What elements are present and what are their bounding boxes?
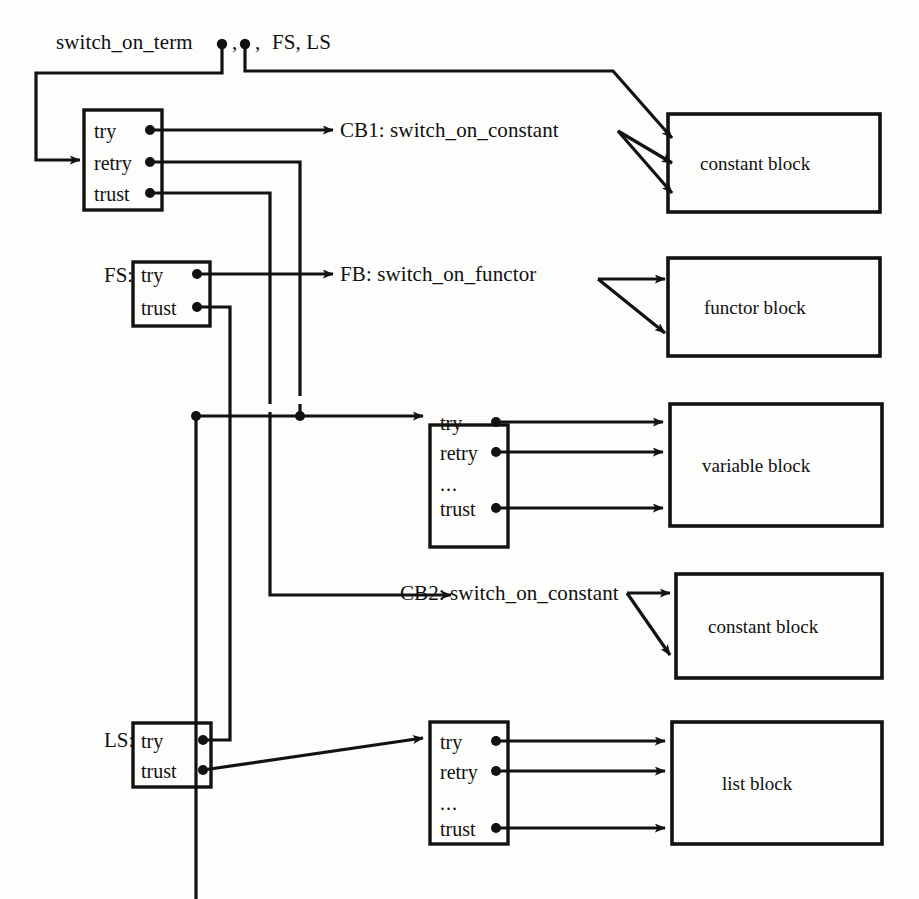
cp-term-trust-dot <box>145 188 155 198</box>
wire-arg1-to-term-choicepoint <box>36 48 222 160</box>
block-label-list: list block <box>722 774 792 793</box>
cp-ls-try-dot <box>198 735 208 745</box>
block-label-constant-1: constant block <box>700 154 810 173</box>
cp-term-try-dot <box>145 125 155 135</box>
cp-var-field-try: try <box>440 413 462 433</box>
header-comma-1: , <box>232 32 237 53</box>
cp-fs-try-dot <box>192 269 202 279</box>
header-named-args: FS, LS <box>272 32 331 53</box>
cp-term-field-retry: retry <box>94 153 132 173</box>
cp-list-field-retry: retry <box>440 762 478 782</box>
label-fb: FB: switch_on_functor <box>340 264 536 285</box>
cp-ls-field-trust: trust <box>141 761 177 781</box>
cp-var-field-ellipsis: ... <box>440 474 458 494</box>
wire-cb1-to-constant-block-a <box>618 131 672 163</box>
header-instruction: switch_on_term <box>56 32 193 53</box>
block-label-constant-2: constant block <box>708 617 818 636</box>
cp-fs-trust-dot <box>192 302 202 312</box>
cp-list-trust-dot <box>491 823 501 833</box>
cp-fs-field-trust: trust <box>141 298 177 318</box>
cp-term-field-trust: trust <box>94 184 130 204</box>
cp-var-field-trust: trust <box>440 499 476 519</box>
cp-ls-field-try: try <box>141 731 163 751</box>
wire-ls-trust-to-list-choicepoint <box>203 738 423 770</box>
cp-var-trust-dot <box>491 503 501 513</box>
wire-term-retry-bus <box>150 162 300 416</box>
block-label-functor: functor block <box>704 298 806 317</box>
bus-junction-retry <box>295 411 305 421</box>
arg-dot-1 <box>217 39 227 49</box>
label-fs-tag: FS: <box>104 265 133 286</box>
cp-var-field-retry: retry <box>440 443 478 463</box>
cp-list-try-dot <box>491 736 501 746</box>
cp-ls-trust-dot <box>198 765 208 775</box>
wire-cb1-to-constant-block-b <box>618 131 672 193</box>
label-ls-tag: LS: <box>104 730 134 751</box>
cp-list-field-try: try <box>440 732 462 752</box>
cp-fs-field-try: try <box>141 265 163 285</box>
label-cb1: CB1: switch_on_constant <box>340 120 559 141</box>
arg-dot-2 <box>240 39 250 49</box>
wire-cb2-to-constant-block2-b <box>627 593 670 655</box>
cp-list-retry-dot <box>491 766 501 776</box>
cp-term-field-try: try <box>94 121 116 141</box>
header-instruction-text: switch_on_term <box>56 30 193 54</box>
bus-junction-left <box>191 411 201 421</box>
cp-term-retry-dot <box>145 157 155 167</box>
wire-fs-trust-to-ls <box>197 307 230 740</box>
cp-list-field-ellipsis: ... <box>440 793 458 813</box>
block-label-variable: variable block <box>702 456 810 475</box>
diagram-canvas: switch_on_term , , FS, LS CB1: switch_on… <box>0 0 919 899</box>
cp-list-field-trust: trust <box>440 819 476 839</box>
cp-var-retry-dot <box>491 447 501 457</box>
cp-var-try-dot <box>491 417 501 427</box>
label-cb2: CB2: switch_on_constant <box>400 583 619 604</box>
wire-fb-to-functor-block-b <box>598 279 665 333</box>
header-comma-2: , <box>255 32 260 53</box>
